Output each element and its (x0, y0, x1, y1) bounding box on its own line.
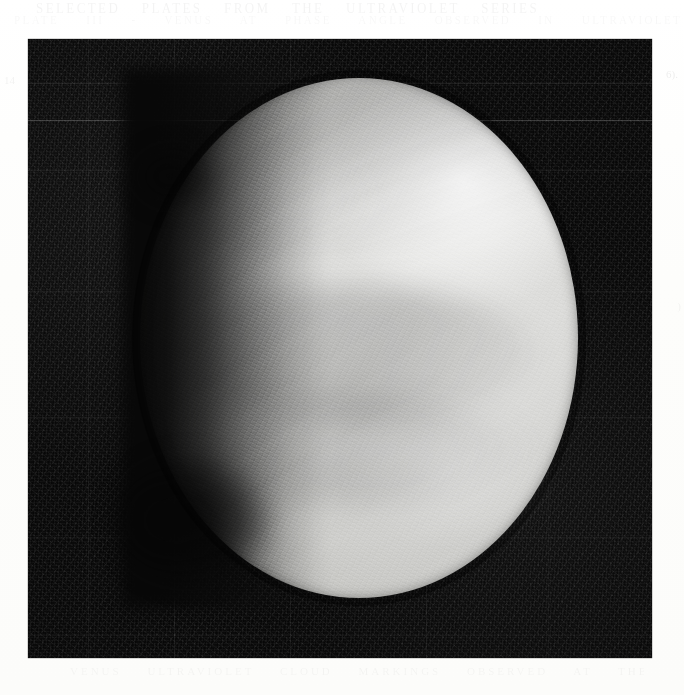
ghost-text-right-margin-lower: ) (677, 300, 681, 312)
venus-disc (140, 78, 578, 598)
terminator-notch-lower-left (114, 452, 272, 587)
venus-photograph-plate (28, 39, 652, 658)
bright-cloud-streak (341, 390, 551, 546)
ghost-text-right-margin: 6). (666, 68, 678, 80)
ghost-text-top-line-2: PLATE III - VENUS AT PHASE ANGLE OBSERVE… (0, 14, 684, 27)
ghost-text-bottom: VENUS ULTRAVIOLET CLOUD MARKINGS OBSERVE… (70, 665, 644, 677)
terminator-notch-upper-left (131, 140, 219, 213)
ghost-text-left-margin: 14 (4, 74, 15, 86)
scanned-page: SELECTED PLATES FROM THE ULTRAVIOLET SER… (0, 0, 684, 695)
ghost-text-top-line-1: SELECTED PLATES FROM THE ULTRAVIOLET SER… (0, 1, 684, 18)
